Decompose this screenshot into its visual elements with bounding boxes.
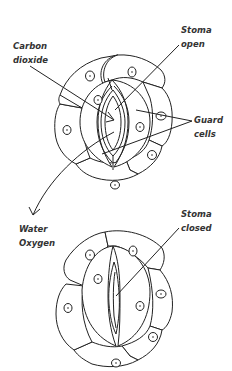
label-closed: closed [181,221,212,235]
label-carbon: Carbon [13,39,48,53]
nucleus [86,71,95,81]
label-stoma: Stoma [181,23,212,37]
label-guard: Guard [194,113,223,127]
nucleus [111,181,120,189]
nucleus [149,333,158,342]
label-stoma-2: Stoma [181,207,212,221]
label-cells: cells [194,127,223,141]
nucleus [156,290,166,298]
nucleus [63,126,71,135]
label-stoma-closed: Stoma closed [181,207,212,235]
nucleus [148,151,157,160]
nucleus-guard [136,302,144,311]
label-open: open [181,37,212,51]
label-stoma-open: Stoma open [181,23,212,51]
epidermal-cell [148,268,173,330]
label-water-oxygen: Water Oxygen [19,222,55,250]
stoma-pore-inner [105,96,121,150]
nucleus-guard [94,96,102,105]
label-dioxide: dioxide [13,53,48,67]
label-carbon-dioxide: Carbon dioxide [13,39,48,67]
nucleus [129,246,137,256]
nucleus [128,67,136,77]
stoma-open-group [29,45,192,215]
stoma-closed-group [56,228,179,367]
stoma-pore-closed-inner [113,272,116,328]
nucleus [86,250,95,260]
nucleus-guard [94,275,102,284]
nucleus [64,304,72,313]
label-oxygen: Oxygen [19,236,55,250]
label-water: Water [19,222,55,236]
nucleus [112,359,121,367]
label-guard-cells: Guard cells [194,113,223,141]
nucleus-guard [136,123,144,132]
